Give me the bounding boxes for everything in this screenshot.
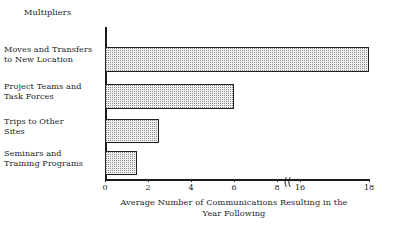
x-tick-label-2: 4: [188, 183, 193, 192]
category-label-1: Project Teams and Task Forces: [4, 81, 104, 102]
x-tick-mark-5: [300, 179, 301, 182]
x-tick-mark-3: [234, 179, 235, 182]
x-tick-mark-4: [277, 179, 278, 182]
plot-area: 0 2 4 6 8 16 18: [105, 27, 369, 179]
x-axis-title-line-1: Year Following: [84, 208, 384, 219]
bar-chart-figure: Multipliers Moves and Transfers to New L…: [0, 0, 403, 229]
x-tick-label-3: 6: [231, 183, 236, 192]
category-label-0-line-1: to New Location: [4, 54, 104, 64]
x-tick-label-4: 8: [274, 183, 279, 192]
bar-project-teams-and-task-forces: [105, 84, 234, 109]
chart-group-title: Multipliers: [24, 7, 71, 17]
category-label-3-line-0: Seminars and: [4, 148, 104, 158]
x-tick-mark-2: [191, 179, 192, 182]
x-tick-label-0: 0: [102, 183, 107, 192]
x-axis-title-line-0: Average Number of Communications Resulti…: [84, 197, 384, 208]
bar-seminars-and-training-programs: [105, 151, 137, 175]
category-label-1-line-1: Task Forces: [4, 91, 104, 101]
x-tick-label-6: 18: [364, 183, 374, 192]
x-axis-line: [105, 179, 369, 181]
bar-trips-to-other-sites: [105, 119, 159, 143]
category-label-3-line-1: Training Programs: [4, 158, 104, 168]
x-tick-mark-1: [148, 179, 149, 182]
category-label-2: Trips to Other Sites: [4, 116, 104, 137]
category-label-0-line-0: Moves and Transfers: [4, 44, 104, 54]
x-axis-title: Average Number of Communications Resulti…: [84, 197, 384, 220]
x-tick-label-1: 2: [145, 183, 150, 192]
category-label-0: Moves and Transfers to New Location: [4, 44, 104, 65]
category-label-3: Seminars and Training Programs: [4, 148, 104, 169]
category-label-2-line-0: Trips to Other: [4, 116, 104, 126]
bar-moves-and-transfers-to-new-location: [105, 47, 369, 72]
x-tick-mark-6: [369, 179, 370, 182]
axis-break-icon: [283, 173, 294, 185]
category-label-2-line-1: Sites: [4, 126, 104, 136]
category-label-1-line-0: Project Teams and: [4, 81, 104, 91]
x-tick-mark-0: [105, 179, 106, 182]
x-tick-label-5: 16: [295, 183, 305, 192]
